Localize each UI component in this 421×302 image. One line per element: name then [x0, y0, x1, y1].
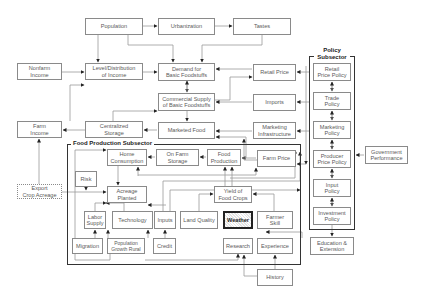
node-input-policy: Input Policy [313, 179, 351, 197]
node-label: Commercial Supply of Basic Foodstuffs [162, 96, 211, 109]
node-credit: Credit [153, 238, 176, 254]
node-marketing-policy: Marketing Policy [313, 121, 351, 139]
node-marketed-food: Marketed Food [158, 122, 215, 139]
node-imports: Imports [253, 94, 296, 111]
node-label: On Farm Storage [166, 151, 188, 164]
node-label: Education & Extension [317, 240, 347, 253]
node-label: Research [226, 243, 250, 249]
node-centralized-storage: Centralized Storage [85, 121, 143, 138]
node-label: Marketing Infrastructure [258, 124, 291, 137]
node-experience: Experience [257, 238, 293, 254]
node-label: Labor Supply [86, 214, 103, 227]
node-label: Risk [81, 176, 92, 182]
node-label: Experience [261, 243, 289, 249]
node-tastes: Tastes [233, 18, 291, 35]
node-investment-policy: Investment Policy [313, 207, 351, 225]
policy-subsector-frame [309, 56, 355, 230]
node-technology: Technology [112, 211, 153, 229]
node-label: Input Policy [325, 182, 340, 195]
node-land-quality: Land Quality [180, 211, 218, 229]
node-label: Tastes [254, 23, 270, 29]
node-label: Home Consumption [111, 151, 144, 164]
node-acreage-planted: Acreage Planted [107, 186, 147, 203]
food-system-diagram: Food Production Subsector Policy Subsect… [0, 0, 421, 302]
node-weather: Weather [223, 211, 253, 229]
node-on-farm-storage: On Farm Storage [156, 149, 199, 166]
node-label: Migration [76, 243, 99, 249]
node-population: Population [85, 18, 143, 35]
node-label: Level/Distribution of Income [93, 65, 136, 78]
node-label: Demand for Basic Foodstuffs [166, 66, 207, 79]
node-label: Investment Policy [318, 210, 345, 223]
node-population-growth-rural: Population Growth Rural [107, 238, 145, 254]
node-label: Acreage Planted [117, 188, 138, 201]
node-label: Imports [265, 99, 284, 105]
node-food-production: Food Production [207, 149, 241, 166]
node-label: Technology [118, 217, 146, 223]
node-label: Producer Price Policy [317, 153, 346, 166]
node-farm-income: Farm Income [17, 121, 62, 138]
node-label: Inputs [157, 217, 172, 223]
node-home-consumption: Home Consumption [107, 149, 147, 166]
node-label: Government Performance [370, 149, 402, 162]
node-label: Food Production [211, 151, 238, 164]
node-urbanization: Urbanization [158, 18, 215, 35]
node-label: Trade Policy [325, 95, 340, 108]
node-label: Marketing Policy [320, 124, 345, 137]
node-export-crop-acreage: Export Crop Acreage [17, 184, 62, 199]
node-label: Farm Income [30, 123, 48, 136]
node-label: Land Quality [183, 217, 214, 223]
node-inputs: Inputs [154, 211, 176, 229]
node-demand-basic-foodstuffs: Demand for Basic Foodstuffs [158, 63, 215, 81]
food-production-subsector-title: Food Production Subsector [71, 140, 154, 147]
node-labor-supply: Labor Supply [84, 211, 106, 229]
node-risk: Risk [75, 171, 97, 187]
node-commercial-supply: Commercial Supply of Basic Foodstuffs [158, 93, 215, 111]
node-label: Farmer Skill [266, 214, 284, 227]
node-nonfarm-income: Nonfarm Income [17, 63, 62, 80]
policy-subsector-title: Policy Subsector [314, 47, 350, 61]
node-retail-price-policy: Retail Price Policy [313, 63, 351, 81]
node-education-extension: Education & Extension [310, 237, 354, 255]
node-label: Yield of Food Crops [218, 188, 247, 201]
node-history: History [257, 269, 293, 286]
node-retail-price: Retail Price [253, 64, 296, 81]
node-label: Urbanization [171, 23, 202, 29]
node-label: Retail Price [260, 69, 289, 75]
node-label: Weather [227, 217, 249, 223]
node-migration: Migration [72, 238, 103, 254]
node-label: Nonfarm Income [29, 65, 50, 78]
node-label: Export Crop Acreage [22, 185, 56, 198]
node-government-performance: Government Performance [365, 146, 408, 164]
node-label: Centralized Storage [100, 123, 128, 136]
node-trade-policy: Trade Policy [313, 92, 351, 110]
node-yield-food-crops: Yield of Food Crops [214, 186, 252, 203]
node-label: Retail Price Policy [317, 66, 346, 79]
node-label: Credit [157, 243, 172, 249]
node-producer-price-policy: Producer Price Policy [313, 150, 351, 168]
node-farm-price: Farm Price [257, 150, 296, 167]
node-label: Marketed Food [168, 127, 206, 133]
node-research: Research [223, 238, 253, 254]
node-label: History [266, 274, 283, 280]
node-farmer-skill: Farmer Skill [257, 211, 293, 229]
node-label: Population Growth Rural [111, 240, 140, 253]
node-label: Population [101, 23, 127, 29]
node-label: Farm Price [263, 155, 290, 161]
node-marketing-infrastructure: Marketing Infrastructure [253, 122, 296, 139]
node-level-distribution-income: Level/Distribution of Income [85, 63, 143, 80]
